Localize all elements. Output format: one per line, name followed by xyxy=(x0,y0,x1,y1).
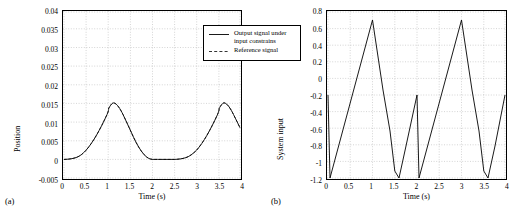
panel-b-ytick-5: -0.2 xyxy=(290,92,322,101)
panel-a-ytick-4: 0.015 xyxy=(18,101,58,110)
panel-a-xtick-5: 2.5 xyxy=(165,182,185,191)
panel-b-xtick-1: 0.5 xyxy=(339,182,359,191)
panel-a-ytick-8: 0.035 xyxy=(18,26,58,35)
panel-a-xtick-8: 4 xyxy=(232,182,252,191)
panel-a-xtick-1: 0.5 xyxy=(75,182,95,191)
panel-b-xtick-4: 2 xyxy=(406,182,426,191)
panel-a-output-curve xyxy=(64,103,240,160)
panel-a-plot-area: Output signal under input constrains Ref… xyxy=(62,10,242,180)
panel-a-ytick-1: 0 xyxy=(18,157,58,166)
panel-b-xtick-7: 3.5 xyxy=(474,182,494,191)
panel-a-xtick-0: 0 xyxy=(52,182,72,191)
panel-a-xtick-3: 1.5 xyxy=(120,182,140,191)
legend-line-solid-icon xyxy=(208,29,230,40)
panel-a-xtick-6: 3 xyxy=(187,182,207,191)
panel-a-ytick-9: 0.04 xyxy=(18,7,58,16)
figure-container: Position -0.005 0 0.005 0.01 0.015 0.02 … xyxy=(0,0,531,224)
panel-b: System input -1.2 -1 -0.8 -0.6 -0.4 -0.2… xyxy=(266,0,531,224)
panel-b-xtick-5: 2.5 xyxy=(429,182,449,191)
panel-a-ytick-3: 0.01 xyxy=(18,120,58,129)
panel-b-ytick-7: 0.2 xyxy=(290,58,322,67)
panel-b-plot-area xyxy=(326,10,507,180)
panel-b-xtick-6: 3 xyxy=(452,182,472,191)
panel-a-xtick-2: 1 xyxy=(97,182,117,191)
panel-b-xtick-8: 4 xyxy=(497,182,517,191)
panel-b-x-axis-label: Time (s) xyxy=(326,192,507,201)
panel-b-xtick-2: 1 xyxy=(361,182,381,191)
panel-a-ytick-6: 0.025 xyxy=(18,63,58,72)
panel-b-svg xyxy=(327,11,506,179)
panel-a-reference-curve xyxy=(64,103,240,160)
panel-a-xtick-7: 3.5 xyxy=(210,182,230,191)
panel-b-ytick-8: 0.4 xyxy=(290,42,322,51)
panel-b-ytick-1: -1 xyxy=(290,159,322,168)
panel-a-ytick-5: 0.02 xyxy=(18,82,58,91)
panel-b-tag: (b) xyxy=(271,196,281,206)
panel-a-ytick-2: 0.005 xyxy=(18,138,58,147)
panel-a-xtick-4: 2 xyxy=(142,182,162,191)
panel-b-input-curve xyxy=(328,20,505,178)
panel-a-x-axis-label: Time (s) xyxy=(62,192,242,201)
panel-b-ytick-3: -0.6 xyxy=(290,126,322,135)
panel-b-ytick-2: -0.8 xyxy=(290,142,322,151)
panel-b-ytick-6: 0 xyxy=(290,75,322,84)
panel-a-ytick-7: 0.03 xyxy=(18,45,58,54)
panel-a-tag: (a) xyxy=(5,196,14,206)
panel-b-ytick-4: -0.4 xyxy=(290,109,322,118)
panel-b-xtick-0: 0 xyxy=(316,182,336,191)
panel-b-y-axis-label: System input xyxy=(276,118,285,160)
panel-b-gridlines xyxy=(327,11,506,179)
legend-line-dashed-icon xyxy=(208,46,230,57)
panel-a: Position -0.005 0 0.005 0.01 0.015 0.02 … xyxy=(0,0,266,224)
panel-b-ytick-10: 0.8 xyxy=(290,7,322,16)
panel-b-xtick-3: 1.5 xyxy=(384,182,404,191)
panel-b-ytick-9: 0.6 xyxy=(290,25,322,34)
